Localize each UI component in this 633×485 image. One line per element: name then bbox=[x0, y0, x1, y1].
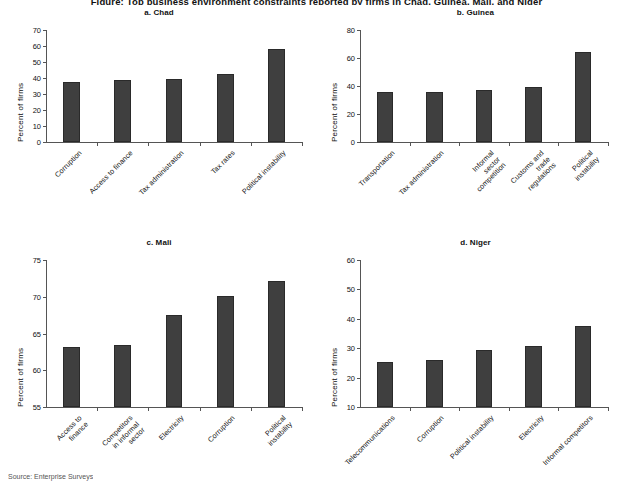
bar bbox=[166, 315, 183, 407]
y-axis-label: Percent of firms bbox=[330, 348, 339, 407]
y-tick bbox=[43, 30, 46, 31]
y-tick bbox=[357, 30, 360, 31]
plot-area: 010203040506070CorruptionAccess to finan… bbox=[46, 30, 302, 142]
bar bbox=[476, 90, 492, 142]
y-tick-label: 30 bbox=[347, 344, 355, 353]
y-tick bbox=[43, 260, 46, 261]
x-tick-label: Informal competitors bbox=[504, 414, 595, 485]
x-tick-label: Access to finance bbox=[44, 149, 135, 240]
bar bbox=[114, 80, 131, 142]
y-tick-label: 0 bbox=[37, 138, 41, 147]
bar bbox=[575, 326, 591, 407]
y-tick-label: 70 bbox=[33, 292, 41, 301]
x-tick bbox=[251, 407, 252, 411]
bar bbox=[377, 362, 393, 407]
y-tick-label: 40 bbox=[347, 82, 355, 91]
y-tick bbox=[43, 407, 46, 408]
chart-panel-d: d. NigerPercent of firms102030405060Tele… bbox=[318, 238, 633, 466]
bar bbox=[217, 74, 234, 142]
bar bbox=[114, 345, 131, 407]
chart-panel-c: c. MaliPercent of firms5560657075Access … bbox=[0, 238, 318, 466]
bar bbox=[426, 360, 442, 407]
y-tick bbox=[43, 297, 46, 298]
y-tick-label: 40 bbox=[33, 74, 41, 83]
y-tick-label: 60 bbox=[347, 54, 355, 63]
x-axis-line bbox=[46, 407, 302, 408]
chart-panel-a: a. ChadPercent of firms010203040506070Co… bbox=[0, 8, 318, 223]
y-tick-label: 65 bbox=[33, 329, 41, 338]
bar bbox=[476, 350, 492, 407]
y-tick-label: 20 bbox=[347, 110, 355, 119]
y-tick-label: 75 bbox=[33, 256, 41, 265]
panel-title: c. Mali bbox=[0, 238, 318, 247]
panel-title: a. Chad bbox=[0, 8, 318, 17]
y-tick bbox=[43, 78, 46, 79]
x-tick bbox=[251, 142, 252, 146]
figure-title: Figure: Top business environment constra… bbox=[0, 0, 633, 5]
y-axis-line bbox=[46, 260, 47, 407]
y-axis-label: Percent of firms bbox=[16, 83, 25, 142]
x-tick bbox=[97, 142, 98, 146]
y-tick-label: 70 bbox=[33, 26, 41, 35]
y-tick-label: 0 bbox=[351, 138, 355, 147]
x-tick-label: Corruption bbox=[0, 149, 84, 240]
y-tick bbox=[43, 334, 46, 335]
bar bbox=[268, 49, 285, 142]
y-tick-label: 30 bbox=[33, 90, 41, 99]
y-tick-label: 80 bbox=[347, 26, 355, 35]
x-tick bbox=[302, 142, 303, 146]
y-axis-line bbox=[360, 30, 361, 142]
bar bbox=[575, 52, 591, 142]
bar bbox=[525, 87, 541, 142]
x-tick bbox=[558, 142, 559, 146]
x-axis-line bbox=[360, 407, 608, 408]
bar bbox=[217, 296, 234, 407]
x-tick bbox=[410, 142, 411, 146]
y-tick bbox=[357, 58, 360, 59]
y-tick bbox=[357, 407, 360, 408]
y-tick-label: 60 bbox=[33, 366, 41, 375]
x-tick-label: Political instability bbox=[198, 149, 289, 240]
x-tick bbox=[459, 142, 460, 146]
y-tick bbox=[357, 260, 360, 261]
x-tick-label: Tax administration bbox=[95, 149, 186, 240]
bar bbox=[268, 281, 285, 407]
panel-title: b. Guinea bbox=[318, 8, 633, 17]
panel-title: d. Niger bbox=[318, 238, 633, 247]
x-tick bbox=[200, 407, 201, 411]
bar bbox=[63, 347, 80, 407]
y-tick bbox=[357, 289, 360, 290]
x-tick bbox=[608, 407, 609, 411]
y-tick-label: 10 bbox=[347, 403, 355, 412]
x-tick bbox=[97, 407, 98, 411]
plot-area: 102030405060TelecommunicationsCorruption… bbox=[360, 260, 608, 407]
y-tick bbox=[43, 62, 46, 63]
y-axis-line bbox=[360, 260, 361, 407]
x-axis-line bbox=[360, 142, 608, 143]
x-tick bbox=[509, 407, 510, 411]
x-tick-label: Transportation bbox=[306, 149, 397, 240]
y-tick bbox=[43, 142, 46, 143]
plot-area: 020406080TransportationTax administratio… bbox=[360, 30, 608, 142]
y-tick-label: 20 bbox=[347, 373, 355, 382]
x-tick bbox=[410, 407, 411, 411]
y-tick bbox=[43, 46, 46, 47]
y-tick-label: 55 bbox=[33, 403, 41, 412]
y-tick-label: 60 bbox=[33, 42, 41, 51]
x-tick-label: Tax rates bbox=[146, 149, 237, 240]
x-tick bbox=[148, 142, 149, 146]
x-tick bbox=[148, 407, 149, 411]
y-tick bbox=[357, 86, 360, 87]
y-tick bbox=[357, 319, 360, 320]
y-tick-label: 50 bbox=[33, 58, 41, 67]
x-tick bbox=[200, 142, 201, 146]
y-tick-label: 40 bbox=[347, 314, 355, 323]
y-tick bbox=[357, 114, 360, 115]
y-tick bbox=[43, 110, 46, 111]
y-axis-line bbox=[46, 30, 47, 142]
y-tick bbox=[357, 142, 360, 143]
y-tick bbox=[43, 370, 46, 371]
y-tick bbox=[43, 126, 46, 127]
bar bbox=[525, 346, 541, 407]
x-tick bbox=[302, 407, 303, 411]
